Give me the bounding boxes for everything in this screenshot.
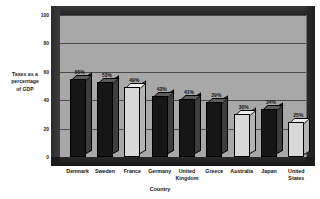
- bar-side-face: [140, 81, 146, 154]
- x-axis-tick-label-line: United: [279, 168, 314, 175]
- bar-side-face: [168, 89, 174, 154]
- bar-front-face: [288, 122, 304, 158]
- y-axis-ticks: 100806040200: [30, 0, 49, 199]
- x-axis-tick-label: UnitedStates: [279, 168, 314, 183]
- y-axis-tick-label: 20: [30, 126, 49, 132]
- bar-front-face: [152, 96, 168, 157]
- bar-column: [70, 79, 86, 157]
- bar-column: [97, 82, 113, 157]
- plot-floor: [60, 157, 306, 166]
- bar-value-label: 41%: [184, 89, 194, 95]
- plot-area: 55%53%49%43%41%39%30%34%25%: [51, 6, 315, 166]
- bar-side-face: [195, 92, 201, 154]
- bar-side-face: [222, 95, 228, 154]
- bar-column: [288, 122, 304, 158]
- bar-value-label: 55%: [75, 69, 85, 75]
- bar-value-label: 43%: [157, 86, 167, 92]
- bar-front-face: [234, 114, 250, 157]
- bar-front-face: [179, 99, 195, 157]
- chart-left-bevel: [51, 6, 60, 166]
- bar-column: [261, 109, 277, 157]
- x-axis-ticks: DenmarkSwedenFranceGermanyUnitedKingdomG…: [51, 168, 315, 188]
- bar-front-face: [124, 87, 140, 157]
- y-axis-tick-label: 100: [30, 12, 49, 18]
- bar-value-label: 39%: [211, 92, 221, 98]
- bar-value-label: 34%: [266, 99, 276, 105]
- bar-front-face: [97, 82, 113, 157]
- bar-chart: Taxes as a percentage of GDP 10080604020…: [0, 0, 320, 199]
- bar-value-label: 53%: [102, 72, 112, 78]
- bar-side-face: [113, 75, 119, 154]
- bar-column: [234, 114, 250, 157]
- bar-column: [206, 102, 222, 157]
- bar-front-face: [206, 102, 222, 157]
- bar-side-face: [86, 72, 92, 154]
- chart-top-bevel-face: [51, 6, 315, 15]
- y-axis-tick-label: 40: [30, 97, 49, 103]
- bar-column: [152, 96, 168, 157]
- chart-top-bevel: [51, 6, 315, 15]
- bars-layer: 55%53%49%43%41%39%30%34%25%: [60, 15, 306, 157]
- bar-column: [179, 99, 195, 157]
- x-axis-title: Country: [0, 186, 320, 192]
- bar-value-label: 25%: [293, 112, 303, 118]
- bar-value-label: 30%: [239, 104, 249, 110]
- bar-value-label: 49%: [129, 77, 139, 83]
- y-axis-tick-label: 80: [30, 40, 49, 46]
- y-axis-tick-label: 0: [30, 154, 49, 160]
- bar-column: [124, 87, 140, 157]
- bar-front-face: [70, 79, 86, 157]
- x-axis-tick-label-line: Kingdom: [169, 175, 204, 182]
- x-axis-tick-label-line: States: [279, 175, 314, 182]
- bar-front-face: [261, 109, 277, 157]
- y-axis-tick-label: 60: [30, 69, 49, 75]
